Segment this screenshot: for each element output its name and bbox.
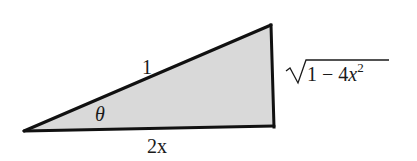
radicand-variable: x [347,63,357,85]
radicand-text: 1 − 4x2 [307,60,364,85]
adjacent-side-label: 2x [147,135,167,157]
radicand-prefix: 1 − 4 [307,63,348,85]
angle-label-theta: θ [95,103,105,125]
opposite-side-label: 1 − 4x2 [286,60,389,85]
hypotenuse-label: 1 [142,56,152,78]
right-triangle-diagram: 1 θ 2x 1 − 4x2 [0,0,417,161]
radicand-exponent: 2 [357,60,364,75]
adjacent-side-label-text: 2x [147,135,167,157]
